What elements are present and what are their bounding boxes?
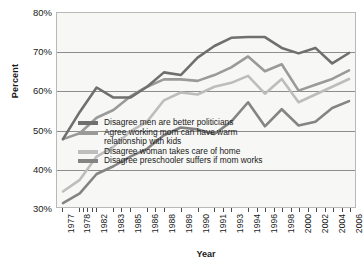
legend-item: Agree working mom can have warm relation… [78,128,296,147]
x-axis-title: Year [56,249,356,259]
x-axis-tick-label: 1977 [66,214,76,233]
plot-area [56,12,356,208]
x-axis-tick-label: 2002 [320,214,330,233]
x-axis-tick-mark [231,208,232,212]
x-axis-tick-label: 1989 [184,214,194,233]
x-axis-tick-mark [214,208,215,212]
x-axis-tick-mark [181,208,182,212]
x-axis-tick-mark [350,208,351,212]
x-axis-tick-mark [79,208,80,212]
x-axis-tick-mark [147,208,148,212]
x-axis-tick-label: 1996 [269,214,279,233]
y-axis-tick-label: 70% [8,46,52,57]
x-axis-tick-label: 1982 [99,214,109,233]
x-axis-tick-mark [333,208,334,212]
x-axis-tick-mark [198,208,199,212]
legend: Disagree men are better politiciansAgree… [78,118,296,166]
legend-label: Agree working mom can have warm relation… [104,128,238,147]
x-axis-tick-mark [316,208,317,212]
x-axis-tick-label: 1983 [116,214,126,233]
x-axis-tick-label: 1978 [82,214,92,233]
x-axis-tick-mark [291,208,292,212]
x-axis-tick-mark [308,208,309,212]
x-axis-tick-mark [113,208,114,212]
x-axis-tick-mark [248,208,249,212]
x-axis-tick-mark [92,208,93,212]
legend-color-swatch [78,131,98,135]
x-axis-tick-labels: 1977197819821983198519861988198919901991… [56,214,356,248]
x-axis-tick-label: 1990 [201,214,211,233]
legend-color-swatch [78,159,98,163]
x-axis-tick-mark [282,208,283,212]
legend-color-swatch [78,150,98,154]
y-axis-tick-label: 60% [8,85,52,96]
y-axis-tick-label: 40% [8,163,52,174]
legend-item: Disagree preschooler suffers if mom work… [78,156,296,166]
y-axis-tick-label: 80% [8,7,52,18]
data-lines [57,13,355,207]
x-axis-tick-mark [87,208,88,212]
y-axis-tick-label: 50% [8,124,52,135]
x-axis-tick-mark [155,208,156,212]
x-axis-tick-mark [265,208,266,212]
x-axis-tick-label: 1988 [167,214,177,233]
x-axis-tick-mark [257,208,258,212]
x-axis-tick-label: 1993 [235,214,245,233]
y-axis-tick-label: 30% [8,203,52,214]
x-axis-tick-label: 1986 [150,214,160,233]
x-axis-tick-label: 1994 [252,214,262,233]
legend-label: Disagree preschooler suffers if mom work… [104,156,263,166]
x-axis-tick-mark [96,208,97,212]
x-axis-tick-mark [130,208,131,212]
x-axis-tick-mark [342,208,343,212]
x-axis-tick-mark [62,208,63,212]
x-axis-tick-label: 2006 [354,214,363,233]
x-axis-tick-mark [223,208,224,212]
x-axis-tick-mark [121,208,122,212]
x-axis-tick-mark [325,208,326,212]
y-axis-tick-labels: 30%40%50%60%70%80% [8,0,52,265]
x-axis-tick-mark [274,208,275,212]
x-axis-tick-mark [164,208,165,212]
x-axis-tick-label: 2000 [303,214,313,233]
x-axis-tick-mark [299,208,300,212]
chart-figure: Percent 30%40%50%60%70%80% Disagree men … [0,0,363,265]
x-axis-tick-label: 1985 [133,214,143,233]
legend-color-swatch [78,121,98,125]
x-axis-tick-mark [83,208,84,212]
x-axis-tick-label: 1991 [218,214,228,233]
x-axis-tick-label: 1998 [286,214,296,233]
x-axis-tick-label: 2004 [337,214,347,233]
